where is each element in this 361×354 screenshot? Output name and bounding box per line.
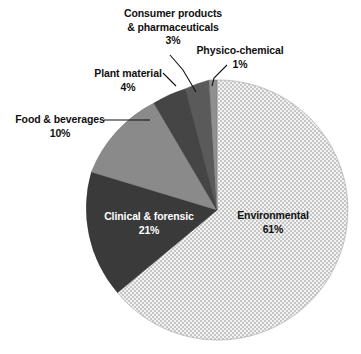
slice-label-plant-material-text: Plant material xyxy=(94,67,161,81)
slice-value-food-beverages: 10% xyxy=(15,127,104,141)
slice-label-consumer-products-line2: & pharmaceuticals xyxy=(124,21,222,35)
slice-label-clinical-forensic: Clinical & forensic 21% xyxy=(104,209,194,237)
leader-line-plant-material xyxy=(163,73,176,86)
slice-value-clinical-forensic: 21% xyxy=(104,223,194,237)
pie-chart-canvas xyxy=(0,0,361,354)
slice-label-physico-chemical-text: Physico-chemical xyxy=(196,44,283,58)
slice-label-clinical-forensic-text: Clinical & forensic xyxy=(104,209,194,223)
slice-label-environmental-text: Environmental xyxy=(237,208,309,222)
leader-line-consumer-products xyxy=(170,55,196,92)
slice-label-plant-material: Plant material 4% xyxy=(94,67,161,94)
slice-label-food-beverages-text: Food & beverages xyxy=(15,113,104,127)
slice-value-plant-material: 4% xyxy=(94,81,161,95)
slice-value-physico-chemical: 1% xyxy=(196,58,283,72)
slice-label-physico-chemical: Physico-chemical 1% xyxy=(196,44,283,71)
slice-label-food-beverages: Food & beverages 10% xyxy=(15,113,104,140)
pie-chart-figure: Consumer products & pharmaceuticals 3% P… xyxy=(0,0,361,354)
slice-value-environmental: 61% xyxy=(237,222,309,236)
slice-label-environmental: Environmental 61% xyxy=(237,208,309,236)
slice-label-consumer-products: Consumer products & pharmaceuticals 3% xyxy=(124,7,222,48)
slice-label-consumer-products-line1: Consumer products xyxy=(124,7,222,21)
